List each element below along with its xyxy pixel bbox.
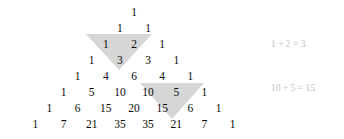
pascal-cell: 10 — [134, 85, 162, 100]
pascal-cell: 1 — [106, 21, 134, 36]
pascal-cell: 21 — [78, 117, 106, 132]
pascal-row-6: 1 6 15 20 15 6 1 — [0, 101, 268, 116]
pascal-cell: 1 — [190, 85, 218, 100]
pascal-cell: 1 — [176, 69, 204, 84]
pascal-cell: 3 — [134, 53, 162, 68]
pascal-row-3: 1 3 3 1 — [0, 53, 268, 68]
pascal-row-4: 1 4 6 4 1 — [0, 69, 268, 84]
pascal-cell: 35 — [106, 117, 134, 132]
pascal-cell: 1 — [78, 53, 106, 68]
pascal-cell: 35 — [134, 117, 162, 132]
pascal-cell: 1 — [49, 85, 77, 100]
pascal-row-2: 1 2 1 — [0, 37, 268, 52]
annotation-lower-sum: 10 + 5 = 15 — [271, 82, 315, 94]
pascal-cell: 3 — [106, 53, 134, 68]
pascal-cell: 1 — [219, 117, 247, 132]
pascal-cell: 1 — [21, 117, 49, 132]
pascal-row-1: 1 1 — [0, 21, 268, 36]
pascal-cell: 7 — [49, 117, 77, 132]
pascal-cell: 1 — [204, 101, 232, 116]
pascal-cell: 1 — [92, 37, 120, 52]
pascal-cell: 1 — [148, 37, 176, 52]
pascal-cell: 1 — [162, 53, 190, 68]
pascal-row-7: 1 7 21 35 35 21 7 1 — [0, 117, 268, 132]
pascal-cell: 4 — [92, 69, 120, 84]
pascal-cell: 10 — [106, 85, 134, 100]
pascal-cell: 1 — [35, 101, 63, 116]
pascal-cell: 6 — [64, 101, 92, 116]
pascal-cell: 1 — [64, 69, 92, 84]
pascal-cell: 6 — [120, 69, 148, 84]
pascal-cell: 15 — [92, 101, 120, 116]
pascal-triangle-grid: 1 1 1 1 2 1 1 3 3 1 1 4 6 4 1 1 — [0, 0, 268, 139]
pascal-cell: 1 — [134, 21, 162, 36]
pascal-triangle-figure: 1 1 1 1 2 1 1 3 3 1 1 4 6 4 1 1 — [0, 0, 344, 139]
annotation-upper-sum: 1 + 2 = 3 — [271, 38, 305, 50]
pascal-cell: 7 — [190, 117, 218, 132]
pascal-cell: 15 — [148, 101, 176, 116]
pascal-row-5: 1 5 10 10 5 1 — [0, 85, 268, 100]
pascal-cell: 20 — [120, 101, 148, 116]
pascal-cell: 2 — [120, 37, 148, 52]
pascal-row-0: 1 — [0, 5, 268, 20]
pascal-cell: 1 — [120, 5, 148, 20]
pascal-cell: 6 — [176, 101, 204, 116]
pascal-cell: 21 — [162, 117, 190, 132]
pascal-cell: 5 — [162, 85, 190, 100]
pascal-cell: 5 — [78, 85, 106, 100]
pascal-cell: 4 — [148, 69, 176, 84]
